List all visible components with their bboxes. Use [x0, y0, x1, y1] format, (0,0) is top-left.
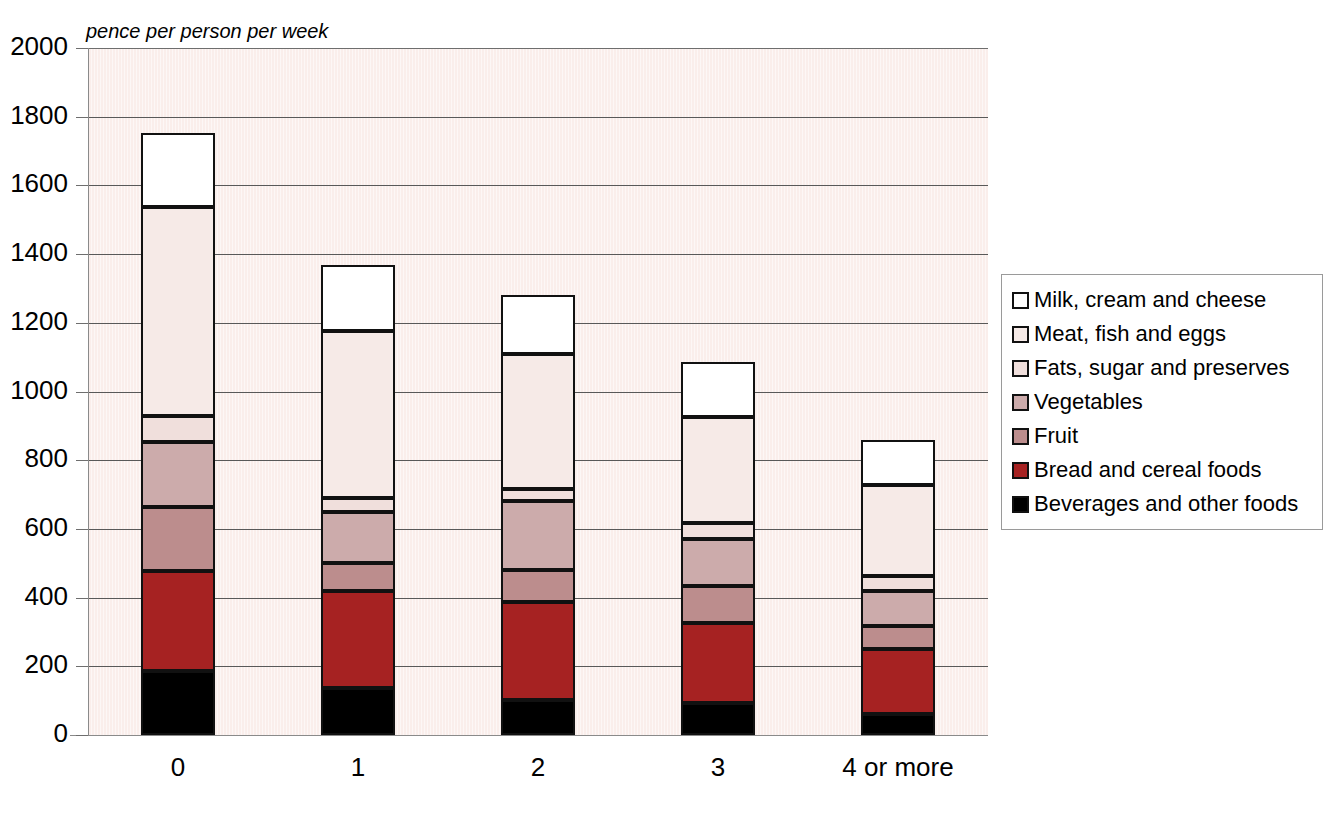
legend: Milk, cream and cheeseMeat, fish and egg…	[1001, 274, 1323, 530]
y-tick-label: 1400	[0, 237, 68, 268]
bar-1[interactable]	[321, 48, 395, 735]
legend-label: Meat, fish and eggs	[1034, 323, 1226, 345]
bar-segment[interactable]	[681, 539, 755, 586]
bar-segment[interactable]	[501, 489, 575, 501]
legend-label: Milk, cream and cheese	[1034, 289, 1266, 311]
legend-item[interactable]: Bread and cereal foods	[1012, 453, 1316, 487]
y-tick-mark	[76, 254, 88, 255]
bar-segment[interactable]	[141, 207, 215, 417]
legend-item[interactable]: Fats, sugar and preserves	[1012, 351, 1316, 385]
y-tick-mark	[76, 48, 88, 49]
bar-segment[interactable]	[681, 417, 755, 523]
y-tick-mark	[76, 117, 88, 118]
bar-segment[interactable]	[321, 265, 395, 331]
plot-area	[88, 48, 988, 735]
legend-swatch	[1012, 428, 1029, 445]
legend-swatch	[1012, 292, 1029, 309]
bar-segment[interactable]	[681, 703, 755, 735]
bar-segment[interactable]	[141, 442, 215, 507]
x-tick-label: 3	[618, 752, 818, 783]
bar-segment[interactable]	[141, 416, 215, 442]
legend-swatch	[1012, 394, 1029, 411]
legend-label: Fruit	[1034, 425, 1078, 447]
legend-swatch	[1012, 326, 1029, 343]
y-axis-unit-note: pence per person per week	[86, 20, 328, 43]
bar-segment[interactable]	[321, 331, 395, 498]
legend-label: Beverages and other foods	[1034, 493, 1298, 515]
bar-segment[interactable]	[681, 362, 755, 417]
bar-segment[interactable]	[501, 602, 575, 700]
y-tick-label: 0	[0, 718, 68, 749]
y-tick-label: 600	[0, 512, 68, 543]
x-tick-label: 1	[258, 752, 458, 783]
y-tick-label: 1800	[0, 100, 68, 131]
legend-swatch	[1012, 360, 1029, 377]
x-tick-label: 2	[438, 752, 638, 783]
bar-segment[interactable]	[321, 498, 395, 512]
y-tick-mark	[76, 185, 88, 186]
bar-segment[interactable]	[681, 623, 755, 703]
bar-segment[interactable]	[681, 586, 755, 623]
y-tick-label: 1000	[0, 375, 68, 406]
bar-segment[interactable]	[321, 591, 395, 688]
y-tick-mark	[76, 460, 88, 461]
bar-segment[interactable]	[861, 626, 935, 649]
bar-0[interactable]	[141, 48, 215, 735]
legend-item[interactable]: Vegetables	[1012, 385, 1316, 419]
y-tick-label: 800	[0, 443, 68, 474]
y-tick-mark	[76, 392, 88, 393]
x-tick-label: 4 or more	[798, 752, 998, 783]
bar-3[interactable]	[681, 48, 755, 735]
bar-segment[interactable]	[321, 512, 395, 564]
y-tick-mark	[76, 529, 88, 530]
legend-item[interactable]: Meat, fish and eggs	[1012, 317, 1316, 351]
bar-segment[interactable]	[861, 485, 935, 576]
x-axis-line	[70, 735, 988, 736]
stacked-bar-chart: pence per person per week 02004006008001…	[0, 0, 1333, 814]
y-tick-mark	[76, 598, 88, 599]
bar-segment[interactable]	[501, 295, 575, 354]
legend-swatch	[1012, 462, 1029, 479]
bar-segment[interactable]	[861, 576, 935, 591]
bar-segment[interactable]	[861, 440, 935, 485]
bar-segment[interactable]	[501, 501, 575, 570]
y-tick-label: 2000	[0, 31, 68, 62]
y-tick-label: 1600	[0, 168, 68, 199]
bar-segment[interactable]	[501, 570, 575, 602]
bar-segment[interactable]	[321, 563, 395, 590]
legend-item[interactable]: Milk, cream and cheese	[1012, 283, 1316, 317]
legend-item[interactable]: Fruit	[1012, 419, 1316, 453]
y-tick-mark	[76, 666, 88, 667]
bar-4-or-more[interactable]	[861, 48, 935, 735]
y-tick-label: 1200	[0, 306, 68, 337]
bar-segment[interactable]	[861, 714, 935, 735]
bar-segment[interactable]	[321, 688, 395, 735]
legend-item[interactable]: Beverages and other foods	[1012, 487, 1316, 521]
x-tick-label: 0	[78, 752, 278, 783]
bar-2[interactable]	[501, 48, 575, 735]
bar-segment[interactable]	[141, 671, 215, 735]
bar-segment[interactable]	[861, 649, 935, 714]
bar-segment[interactable]	[141, 133, 215, 207]
legend-swatch	[1012, 496, 1029, 513]
y-tick-mark	[76, 735, 88, 736]
legend-label: Bread and cereal foods	[1034, 459, 1262, 481]
y-tick-label: 400	[0, 581, 68, 612]
bar-segment[interactable]	[501, 700, 575, 735]
bar-segment[interactable]	[141, 507, 215, 571]
bar-segment[interactable]	[141, 571, 215, 671]
bar-segment[interactable]	[501, 354, 575, 490]
y-tick-label: 200	[0, 649, 68, 680]
bar-segment[interactable]	[681, 523, 755, 539]
y-tick-mark	[76, 323, 88, 324]
bar-segment[interactable]	[861, 591, 935, 626]
legend-label: Fats, sugar and preserves	[1034, 357, 1290, 379]
y-axis-line	[88, 48, 89, 735]
legend-label: Vegetables	[1034, 391, 1143, 413]
